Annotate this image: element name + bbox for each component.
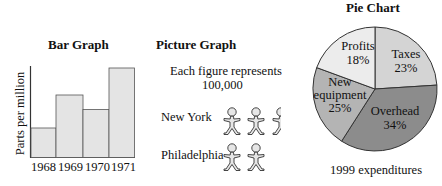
person-icon	[248, 144, 264, 171]
person-icon	[224, 108, 240, 135]
x-tick-1969: 1969	[58, 160, 83, 175]
person-icon	[248, 108, 264, 135]
pie-label-profits: Profits 18%	[338, 39, 378, 67]
pie-label-new-equipment-pct: 25%	[310, 102, 370, 115]
bar-graph	[30, 66, 135, 158]
pie-caption: 1999 expenditures	[330, 163, 422, 178]
pie-chart-title: Pie Chart	[346, 0, 400, 16]
half-person-icon	[273, 108, 289, 135]
pie-label-taxes-pct: 23%	[386, 61, 426, 75]
pie-label-taxes: Taxes 23%	[386, 47, 426, 75]
bar-1968	[31, 128, 56, 158]
x-tick-1970: 1970	[85, 160, 110, 175]
bar-1971	[109, 68, 135, 158]
x-tick-1968: 1968	[31, 160, 56, 175]
bar-1969	[56, 95, 83, 158]
picture-graph-title: Picture Graph	[156, 37, 236, 53]
pie-label-profits-name: Profits	[338, 39, 378, 53]
bar-1970	[83, 110, 109, 158]
pictograph-philadelphia	[224, 144, 264, 171]
category-new-york: New York	[161, 110, 212, 125]
pie-label-overhead-name: Overhead	[362, 104, 428, 118]
pie-label-overhead-pct: 34%	[362, 118, 428, 132]
pictograph-new-york	[224, 108, 289, 135]
y-axis-label: Parts per million	[13, 58, 28, 170]
pie-label-overhead: Overhead 34%	[362, 104, 428, 132]
pictograph-note-line2: 100,000	[202, 78, 243, 93]
pie-label-taxes-name: Taxes	[386, 47, 426, 61]
pie-label-new-equipment: New equipment 25%	[310, 76, 370, 115]
pictograph-note-line1: Each figure represents	[170, 64, 282, 79]
pie-label-profits-pct: 18%	[338, 53, 378, 67]
category-philadelphia: Philadelphia	[161, 148, 224, 163]
x-tick-1971: 1971	[111, 160, 136, 175]
person-icon	[224, 144, 240, 171]
